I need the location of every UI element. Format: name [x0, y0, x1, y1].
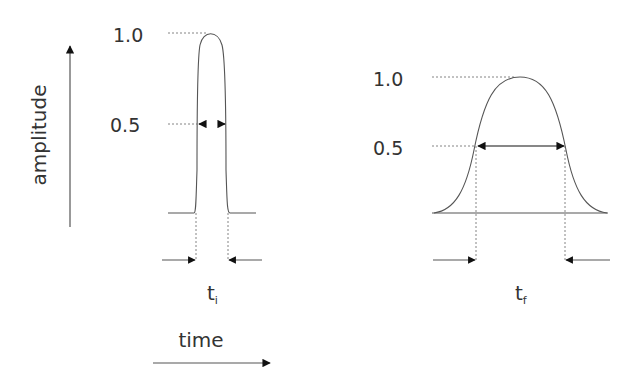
- final-pulse: 1.0 0.5 tf: [373, 68, 610, 307]
- initial-tick-max: 1.0: [113, 24, 143, 46]
- amplitude-label: amplitude: [27, 84, 51, 185]
- final-tick-half: 0.5: [373, 137, 403, 159]
- initial-tick-half: 0.5: [110, 114, 140, 136]
- amplitude-axis: amplitude: [27, 46, 71, 227]
- time-label: time: [178, 328, 223, 352]
- pulse-broadening-diagram: amplitude time 1.0 0.5 ti 1.0 0.5: [0, 0, 643, 385]
- initial-width-label: ti: [207, 281, 218, 307]
- initial-pulse: 1.0 0.5 ti: [110, 24, 262, 307]
- final-tick-max: 1.0: [373, 68, 403, 90]
- final-width-label: tf: [515, 281, 528, 307]
- time-axis: time: [153, 328, 270, 363]
